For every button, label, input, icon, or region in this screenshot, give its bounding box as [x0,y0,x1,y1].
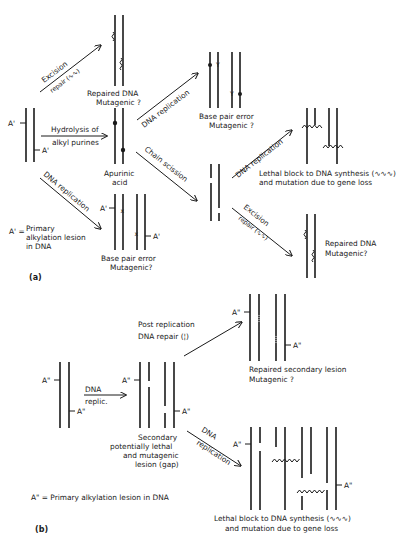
svg-text:Lethal block to DNA synthesis: Lethal block to DNA synthesis (∿∿∿) [259,169,396,178]
panel-a: A' A' Excision repair (∿∿) Repaired DNA … [8,15,396,282]
svg-text:potentially lethal: potentially lethal [110,442,172,451]
panel-a-label: (a) [29,273,42,282]
svg-text:Mutagenic ?: Mutagenic ? [96,98,141,107]
alkylation-lesion-diagram: A' A' Excision repair (∿∿) Repaired DNA … [0,0,412,542]
hydrolysis-arrow: Hydrolysis of alkyl purines [41,125,107,147]
svg-text:A": A" [42,376,50,385]
svg-text:and mutation due to gene loss: and mutation due to gene loss [259,178,372,187]
svg-text:A": A" [233,440,241,449]
excision-repair-right-arrow: Excision repair (∿∿) [232,202,292,256]
base-pair-error-top: Y Y Base pair error Mutagenic ? [199,52,255,130]
base-pair-error-bottom: A' A' x x Base pair error Mutagenic? [100,194,160,272]
svg-text:A': A' [100,204,107,213]
svg-text:Chain scission: Chain scission [143,144,190,184]
apurinic-dna: Apurinic acid [104,108,134,187]
svg-text:A' =: A' = [9,227,25,236]
lesion-label: A' [42,146,49,155]
svg-text:Hydrolysis of: Hydrolysis of [51,125,99,134]
svg-text:Repaired DNA: Repaired DNA [87,89,138,98]
panel-b: A" A" DNA replic. A" A" Secondary potent… [31,294,352,534]
svg-text:A": A" [344,481,352,490]
svg-text:and mutation due to gene loss: and mutation due to gene loss [225,524,338,533]
svg-text:A": A" [122,376,130,385]
svg-text:and mutagenic: and mutagenic [123,451,179,460]
svg-text:replication: replication [195,438,233,467]
svg-text:DNA replication: DNA replication [42,170,92,214]
svg-text:DNA repair (¦): DNA repair (¦) [138,332,189,341]
svg-text:x: x [135,230,139,237]
start-dna-b: A" A" [42,362,85,428]
svg-text:Repaired secondary lesion: Repaired secondary lesion [249,365,347,374]
svg-text:Secondary: Secondary [138,433,178,442]
svg-text:A": A" [77,407,85,416]
panel-b-label: (b) [35,525,48,534]
post-replication-repair-arrow: Post replication DNA repair (¦) [138,320,242,356]
svg-text:alkyl purines: alkyl purines [52,138,99,147]
start-dna-a: A' A' [8,108,49,162]
repaired-secondary-dna: A" A" Repaired secondary lesion Mutageni… [232,294,347,384]
chain-scission-arrow: Chain scission [136,144,197,201]
lesion-label: A' [8,119,15,128]
svg-text:A': A' [153,232,160,241]
svg-text:Mutagenic ?: Mutagenic ? [209,121,254,130]
svg-text:Post replication: Post replication [138,320,195,329]
dna-replication-upper-arrow: DNA replication [137,73,198,130]
svg-text:alkylation lesion: alkylation lesion [26,233,86,242]
svg-text:in DNA: in DNA [26,242,51,251]
svg-text:A": A" [182,407,190,416]
svg-text:Mutagenic?: Mutagenic? [325,249,368,258]
svg-text:Y: Y [229,90,234,97]
dna-replic-arrow: DNA replic. [84,385,126,406]
excision-repair-arrow: Excision repair (∿∿) [40,45,101,95]
svg-text:A": A" [293,341,301,350]
legend-a: A' = Primary alkylation lesion in DNA [9,224,86,251]
svg-text:Mutagenic ?: Mutagenic ? [249,375,294,384]
svg-text:acid: acid [112,178,128,187]
legend-b: A" = Primary alkylation lesion in DNA [31,493,169,502]
svg-text:DNA: DNA [85,385,101,394]
svg-text:x: x [121,207,125,214]
svg-text:Mutagenic?: Mutagenic? [110,263,153,272]
svg-text:Repaired DNA: Repaired DNA [325,239,376,248]
svg-text:Y: Y [215,61,220,68]
lethal-block-dna-b: A" A" Lethal block to DNA synthesis (∿∿∿… [214,427,352,533]
svg-text:Lethal block to DNA synthesis: Lethal block to DNA synthesis (∿∿∿) [214,514,351,523]
svg-text:Primary: Primary [26,224,55,233]
secondary-lesion-dna: A" A" Secondary potentially lethal and m… [110,362,190,469]
svg-text:DNA replication: DNA replication [140,88,192,130]
svg-text:Base pair error: Base pair error [101,254,157,263]
svg-text:A": A" [232,308,240,317]
broken-dna [211,164,219,221]
svg-text:replic.: replic. [85,397,108,406]
svg-text:Apurinic: Apurinic [104,169,134,178]
repaired-dna-top: Repaired DNA Mutagenic ? [87,15,141,107]
svg-text:Base pair error: Base pair error [199,112,255,121]
svg-text:lesion (gap): lesion (gap) [135,460,179,469]
dna-replication-lower-arrow: DNA replication [40,170,101,229]
repaired-dna-right: Repaired DNA Mutagenic? [304,214,376,278]
